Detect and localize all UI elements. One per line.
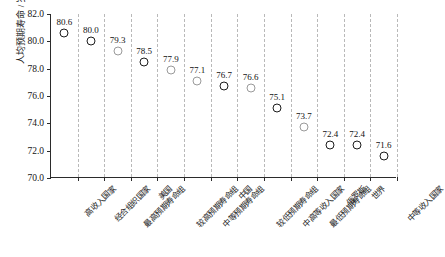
x-tick-mark xyxy=(237,177,238,181)
x-tick-mark xyxy=(211,177,212,181)
x-tick-mark xyxy=(184,177,185,181)
y-tick-label: 72.0 xyxy=(27,146,44,156)
data-point-marker xyxy=(353,141,362,150)
data-point-marker xyxy=(193,76,202,85)
data-point-marker xyxy=(379,152,388,161)
y-tick-label: 76.0 xyxy=(27,91,44,101)
y-tick-label: 82.0 xyxy=(27,9,44,19)
grid-line xyxy=(157,14,158,177)
data-point-marker xyxy=(86,37,95,46)
x-tick-mark xyxy=(317,177,318,181)
data-point-label: 78.5 xyxy=(136,46,152,56)
grid-line xyxy=(264,14,265,177)
data-point-label: 73.7 xyxy=(296,111,312,121)
y-tick-mark xyxy=(47,178,51,179)
y-tick-label: 74.0 xyxy=(27,118,44,128)
data-point-label: 76.6 xyxy=(243,72,259,82)
x-tick-mark xyxy=(157,177,158,181)
y-tick-mark xyxy=(47,14,51,15)
y-tick-label: 80.0 xyxy=(27,36,44,46)
plot-area: 80.680.079.378.577.977.176.776.675.173.7… xyxy=(50,14,396,178)
data-point-marker xyxy=(246,83,255,92)
data-point-marker xyxy=(299,123,308,132)
data-point-label: 80.0 xyxy=(83,25,99,35)
y-tick-mark xyxy=(47,123,51,124)
y-axis-title: 人均预期寿命 / 岁 xyxy=(14,0,27,109)
data-point-label: 79.3 xyxy=(110,35,126,45)
y-tick-mark xyxy=(47,151,51,152)
x-tick-mark xyxy=(131,177,132,181)
data-point-marker xyxy=(273,104,282,113)
grid-line xyxy=(344,14,345,177)
grid-line xyxy=(131,14,132,177)
y-tick-mark xyxy=(47,96,51,97)
grid-line xyxy=(211,14,212,177)
grid-line xyxy=(104,14,105,177)
data-point-label: 80.6 xyxy=(56,17,72,27)
data-point-label: 75.1 xyxy=(269,92,285,102)
data-point-label: 72.4 xyxy=(323,129,339,139)
x-tick-mark xyxy=(78,177,79,181)
grid-line xyxy=(237,14,238,177)
data-point-marker xyxy=(113,46,122,55)
data-point-marker xyxy=(220,82,229,91)
x-tick-mark xyxy=(370,177,371,181)
y-tick-label: 70.0 xyxy=(27,173,44,183)
data-point-label: 76.7 xyxy=(216,70,232,80)
grid-line xyxy=(184,14,185,177)
x-tick-label: 中等收入国家 xyxy=(403,182,445,224)
grid-line xyxy=(370,14,371,177)
data-point-marker xyxy=(140,57,149,66)
y-tick-mark xyxy=(47,69,51,70)
grid-line xyxy=(397,14,398,177)
data-point-label: 77.9 xyxy=(163,54,179,64)
x-tick-mark xyxy=(344,177,345,181)
x-tick-mark xyxy=(291,177,292,181)
y-tick-mark xyxy=(47,41,51,42)
x-tick-label: 世界 xyxy=(368,182,388,202)
data-point-label: 77.1 xyxy=(190,65,206,75)
x-tick-mark xyxy=(104,177,105,181)
grid-line xyxy=(291,14,292,177)
data-point-label: 71.6 xyxy=(376,140,392,150)
data-point-label: 72.4 xyxy=(349,129,365,139)
data-point-marker xyxy=(166,66,175,75)
data-point-marker xyxy=(60,29,69,38)
y-tick-label: 78.0 xyxy=(27,64,44,74)
grid-line xyxy=(78,14,79,177)
x-tick-mark xyxy=(397,177,398,181)
grid-line xyxy=(317,14,318,177)
x-tick-mark xyxy=(264,177,265,181)
data-point-marker xyxy=(326,141,335,150)
